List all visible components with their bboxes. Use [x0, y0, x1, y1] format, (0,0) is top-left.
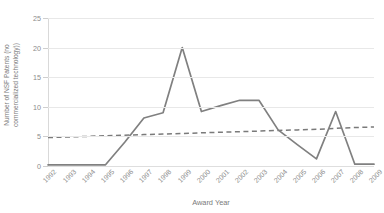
- y-axis-tick-label: 0: [18, 162, 45, 171]
- y-axis-tick-label: 10: [18, 102, 45, 111]
- x-axis-tick-label: 2003: [253, 168, 269, 184]
- x-axis-tick-label: 2008: [349, 168, 365, 184]
- y-axis-tick-mark: [43, 77, 48, 78]
- y-axis-tick-mark: [43, 136, 48, 137]
- x-axis-title: Award Year: [48, 198, 374, 207]
- x-axis-tick-label: 2005: [291, 168, 307, 184]
- y-axis-tick-label: 5: [18, 132, 45, 141]
- y-axis-tick-label: 15: [18, 73, 45, 82]
- x-axis-tick-label: 2000: [195, 168, 211, 184]
- gridline: [48, 136, 374, 137]
- gridline: [48, 107, 374, 108]
- y-axis-tick-mark: [43, 166, 48, 167]
- gridline: [48, 18, 374, 19]
- series-svg: [48, 18, 374, 166]
- x-axis-tick-label: 2002: [234, 168, 250, 184]
- x-axis-tick-label: 1996: [119, 168, 135, 184]
- x-axis-tick-label: 1997: [138, 168, 154, 184]
- x-axis-tick-label: 2004: [272, 168, 288, 184]
- x-axis-tick-label: 2001: [215, 168, 231, 184]
- x-axis-tick-label: 1998: [157, 168, 173, 184]
- y-axis-title-line1: Number of NSF Patents (no: [3, 44, 10, 125]
- plot-area: [48, 18, 374, 166]
- x-axis-tick-labels: 1992199319941995199619971998199920002001…: [48, 166, 374, 198]
- y-axis-tick-mark: [43, 18, 48, 19]
- y-axis-tick-labels: 0510152025: [18, 0, 45, 213]
- x-axis-tick-label: 2006: [310, 168, 326, 184]
- x-axis-tick-label: 1994: [80, 168, 96, 184]
- y-axis-tick-mark: [43, 48, 48, 49]
- x-axis-tick-label: 2007: [330, 168, 346, 184]
- gridline: [48, 77, 374, 78]
- y-axis-tick-label: 20: [18, 43, 45, 52]
- y-axis-tick-mark: [43, 107, 48, 108]
- y-axis-tick-label: 25: [18, 14, 45, 23]
- gridline: [48, 48, 374, 49]
- x-axis-tick-label: 2009: [368, 168, 384, 184]
- x-axis-tick-label: 1995: [100, 168, 116, 184]
- x-axis-tick-label: 1999: [176, 168, 192, 184]
- x-axis-tick-label: 1993: [61, 168, 77, 184]
